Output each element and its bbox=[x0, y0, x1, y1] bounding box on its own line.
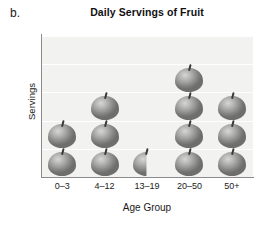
pictograph-column bbox=[211, 36, 253, 177]
apple-icon bbox=[174, 120, 204, 148]
apple-body bbox=[91, 124, 119, 148]
apple-body bbox=[175, 68, 203, 92]
panel-label: b. bbox=[10, 6, 20, 20]
x-tick-label: 50+ bbox=[211, 181, 253, 192]
x-tick-label: 4–12 bbox=[83, 181, 125, 192]
pictograph-column bbox=[168, 36, 210, 177]
y-axis-label: Servings bbox=[26, 57, 37, 147]
apple-icon bbox=[90, 92, 120, 120]
apple-body bbox=[218, 124, 246, 148]
pictograph-column bbox=[83, 36, 125, 177]
x-tick-label: 20–50 bbox=[168, 181, 210, 192]
chart-title: Daily Servings of Fruit bbox=[41, 6, 253, 19]
apple-body bbox=[91, 152, 119, 176]
apple-body bbox=[48, 152, 76, 176]
apple-icon bbox=[90, 148, 120, 176]
pictograph-column bbox=[41, 36, 83, 177]
apple-stem-icon bbox=[145, 148, 148, 155]
x-axis-label: Age Group bbox=[41, 202, 253, 214]
apple-icon bbox=[174, 148, 204, 176]
x-tick-label: 13–19 bbox=[126, 181, 168, 192]
x-axis-line bbox=[41, 177, 254, 178]
pictograph-figure: b. Daily Servings of Fruit Servings 0–34… bbox=[0, 0, 268, 244]
apple-body bbox=[218, 152, 246, 176]
apple-icon bbox=[90, 120, 120, 148]
apple-body bbox=[175, 124, 203, 148]
pictograph-columns bbox=[41, 36, 253, 177]
apple-body bbox=[133, 152, 161, 176]
apple-icon bbox=[47, 120, 77, 148]
x-axis-tick-labels: 0–34–1213–1920–5050+ bbox=[41, 181, 253, 192]
half-apple-icon bbox=[132, 148, 162, 176]
y-axis-line bbox=[41, 34, 42, 178]
apple-body bbox=[48, 124, 76, 148]
apple-icon bbox=[217, 92, 247, 120]
x-tick-label: 0–3 bbox=[41, 181, 83, 192]
apple-icon bbox=[217, 148, 247, 176]
apple-body bbox=[175, 152, 203, 176]
apple-icon bbox=[174, 64, 204, 92]
apple-icon bbox=[47, 148, 77, 176]
apple-body bbox=[218, 96, 246, 120]
apple-icon bbox=[217, 120, 247, 148]
apple-icon bbox=[174, 92, 204, 120]
apple-body bbox=[175, 96, 203, 120]
plot-area bbox=[41, 36, 253, 177]
pictograph-column bbox=[126, 36, 168, 177]
apple-body bbox=[91, 96, 119, 120]
